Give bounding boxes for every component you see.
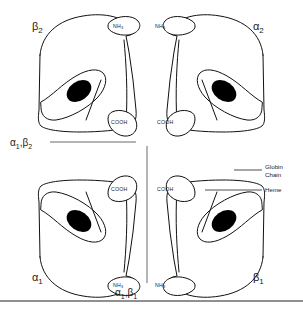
alpha1-cooh-label: COOH	[111, 186, 127, 192]
subunit-beta1	[163, 176, 264, 297]
subunit-alpha1	[38, 176, 139, 297]
subunit-label-alpha2: α2	[253, 20, 264, 35]
subunit-beta2: NH3 COOH β2	[32, 15, 140, 136]
beta1-nh3-loop	[163, 277, 195, 296]
alpha2-nh3-loop	[163, 17, 195, 36]
beta2-cooh-label: COOH	[111, 119, 127, 125]
legend-globin-line1: Globin	[265, 163, 283, 170]
beta1-cooh-label: COOH	[157, 186, 173, 192]
a1b2-interface-label: α1,β2	[10, 137, 32, 150]
subunit-label-beta2: β2	[32, 20, 43, 35]
subunit-label-alpha1: α1	[32, 271, 43, 286]
diagram-canvas: NH3 COOH β2 NH3 COOH α2 N	[0, 0, 303, 312]
subunit-alpha2	[163, 15, 264, 136]
alpha2-cooh-label: COOH	[157, 119, 173, 125]
hemoglobin-diagram: NH3 COOH β2 NH3 COOH α2 N	[0, 0, 303, 312]
legend-heme: Heme	[265, 186, 282, 193]
subunit-label-beta1: β1	[253, 271, 264, 286]
legend-globin-line2: Chain	[265, 171, 282, 178]
